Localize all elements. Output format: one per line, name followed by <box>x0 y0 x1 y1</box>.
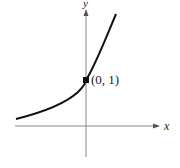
point-marker <box>83 77 89 83</box>
x-axis-arrow-icon <box>153 124 160 129</box>
y-axis-label: y <box>82 0 88 9</box>
exponential-curve <box>16 14 116 119</box>
point-label: (0, 1) <box>91 72 119 87</box>
y-axis-arrow-icon <box>84 9 89 16</box>
x-axis-label: x <box>163 119 170 133</box>
exponential-graph: x y (0, 1) <box>0 0 180 168</box>
